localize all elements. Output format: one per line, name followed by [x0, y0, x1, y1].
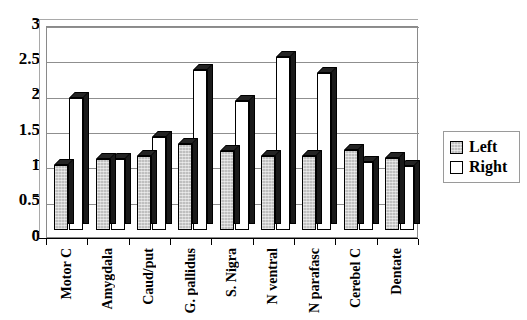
legend-swatch-left — [450, 141, 463, 154]
y-axis-tick-mark — [33, 19, 39, 20]
x-axis-label-7: Cerebel C — [348, 248, 364, 308]
x-axis-tick-mark — [377, 239, 378, 245]
y-axis-tick-mark — [33, 54, 39, 55]
bar-front-face — [220, 151, 234, 230]
bar-left-0 — [54, 165, 68, 230]
bar-left-4 — [220, 151, 234, 230]
x-axis-tick-mark — [170, 239, 171, 245]
x-axis-line — [39, 238, 418, 239]
x-axis-tick-mark — [253, 239, 254, 245]
bar-front-face — [54, 165, 68, 230]
y-axis-tick-label: 2 — [4, 85, 40, 102]
bar-left-5 — [261, 156, 275, 230]
x-axis-label-2: Caud/put — [141, 248, 157, 305]
x-axis-label-6: N parafasc — [307, 248, 323, 313]
bar-side-face — [399, 152, 405, 224]
x-axis-label-8: Dentate — [389, 248, 405, 295]
x-axis-tick-mark — [129, 239, 130, 245]
x-axis-tick-mark — [294, 239, 295, 245]
y-axis-tick-mark — [33, 231, 39, 232]
bar-side-face — [234, 145, 240, 224]
bar-left-7 — [344, 150, 358, 230]
legend-item-right[interactable]: Right — [450, 157, 512, 177]
y-axis-tick-label: 0 — [4, 226, 40, 243]
y-axis-tick-label: 1.5 — [4, 120, 40, 137]
legend-label: Right — [469, 159, 507, 175]
legend-swatch-right — [450, 161, 463, 174]
bar-side-face — [316, 150, 322, 224]
bar-side-face — [290, 51, 296, 224]
bar-left-3 — [178, 144, 192, 230]
gridline — [47, 62, 419, 63]
bar-left-6 — [302, 156, 316, 230]
bar-side-face — [275, 150, 281, 224]
bar-front-face — [178, 144, 192, 230]
bar-front-face — [385, 158, 399, 230]
y-axis-tick-mark — [33, 160, 39, 161]
bar-side-face — [331, 67, 337, 224]
x-axis-tick-mark — [87, 239, 88, 245]
legend-item-left[interactable]: Left — [450, 137, 512, 157]
bar-front-face — [137, 156, 151, 230]
y-axis-tick-label: 0.5 — [4, 191, 40, 208]
y-axis-tick-label: 1 — [4, 155, 40, 172]
bar-side-face — [125, 153, 131, 224]
bar-side-face — [373, 156, 379, 224]
x-axis-label-3: G. pallidus — [183, 248, 199, 313]
bar-front-face — [344, 150, 358, 230]
bar-front-face — [261, 156, 275, 230]
y-axis-tick-mark — [33, 196, 39, 197]
bar-side-face — [207, 64, 213, 224]
bar-front-face — [302, 156, 316, 230]
bar-left-2 — [137, 156, 151, 230]
bar-side-face — [249, 95, 255, 224]
bar-left-8 — [385, 158, 399, 230]
bar-chart: 00.511.522.53 Motor CAmygdalaCaud/putG. … — [0, 0, 527, 320]
bar-side-face — [358, 144, 364, 224]
bar-side-face — [110, 153, 116, 224]
legend-label: Left — [469, 139, 497, 155]
x-axis-label-1: Amygdala — [100, 248, 116, 309]
x-axis-tick-mark — [211, 239, 212, 245]
bar-side-face — [414, 160, 420, 224]
x-axis-label-0: Motor C — [59, 248, 75, 299]
y-axis-tick-label: 2.5 — [4, 49, 40, 66]
y-axis-tick-label: 3 — [4, 14, 40, 31]
x-axis-label-5: N ventral — [265, 248, 281, 304]
plot-area — [46, 26, 418, 238]
gridline — [47, 27, 419, 28]
gridline — [47, 133, 419, 134]
y-axis-tick-mark — [33, 125, 39, 126]
x-axis-tick-mark — [335, 239, 336, 245]
y-axis-tick-mark — [33, 90, 39, 91]
x-axis-label-4: S. Nigra — [224, 248, 240, 297]
bar-side-face — [151, 150, 157, 224]
gridline — [47, 98, 419, 99]
chart-legend: LeftRight — [443, 131, 520, 183]
x-axis-tick-mark — [418, 239, 419, 245]
bar-side-face — [68, 159, 74, 224]
x-axis-tick-mark — [46, 239, 47, 245]
bar-front-face — [96, 159, 110, 230]
bar-left-1 — [96, 159, 110, 230]
bar-side-face — [166, 131, 172, 224]
bar-side-face — [83, 92, 89, 224]
bar-side-face — [192, 138, 198, 224]
